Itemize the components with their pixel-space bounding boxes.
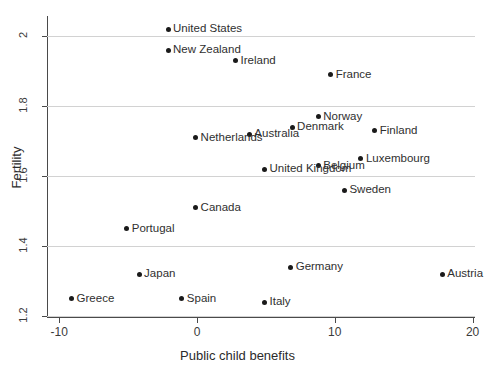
data-point-marker [166,48,171,53]
y-axis-line [47,16,48,317]
y-tick-mark [42,316,47,317]
x-tick-mark [59,318,60,323]
data-point-marker [124,226,129,231]
x-tick-label: 0 [177,325,217,339]
data-point-label: New Zealand [173,43,241,56]
data-point-marker [316,114,321,119]
data-point-marker [440,272,445,277]
data-point-label: Italy [270,295,291,308]
data-point-marker [288,265,293,270]
data-point-marker [137,272,142,277]
y-tick-mark [42,246,47,247]
data-point-marker [193,205,198,210]
y-tick-label: 1.4 [17,230,29,260]
x-tick-label: -10 [39,325,79,339]
data-point-label: Luxembourg [366,152,430,165]
data-point-label: Netherlands [201,131,263,144]
data-point-marker [166,27,171,32]
data-point-label: Greece [77,292,115,305]
data-point-label: Ireland [241,54,276,67]
data-point-label: Finland [380,124,418,137]
x-axis-title: Public child benefits [0,348,475,363]
y-tick-label: 1.2 [17,300,29,330]
data-point-label: Spain [187,292,216,305]
x-tick-mark [197,318,198,323]
data-point-label: Germany [296,260,343,273]
data-point-marker [233,58,238,63]
gridline-y [47,106,475,107]
y-tick-mark [42,106,47,107]
data-point-marker [193,135,198,140]
x-tick-label: 20 [453,325,488,339]
data-point-marker [328,72,333,77]
data-point-marker [372,128,377,133]
data-point-label: Portugal [132,222,175,235]
gridline-y [47,36,475,37]
x-tick-mark [473,318,474,323]
data-point-label: Denmark [297,120,344,133]
y-tick-label: 1.8 [17,90,29,120]
data-point-marker [262,167,267,172]
y-tick-mark [42,176,47,177]
data-point-marker [262,300,267,305]
y-tick-mark [42,36,47,37]
x-tick-label: 10 [315,325,355,339]
data-point-label: Canada [201,201,241,214]
data-point-label: Austria [447,267,483,280]
data-point-label: United Kingdom [270,162,352,175]
data-point-label: Sweden [349,183,391,196]
data-point-label: Japan [144,267,175,280]
y-axis-title: Fertility [9,138,24,198]
x-tick-mark [335,318,336,323]
gridline-y [47,316,475,317]
x-axis-line [47,317,475,318]
data-point-marker [179,296,184,301]
data-point-label: France [336,68,372,81]
y-tick-label: 2 [17,20,29,50]
data-point-label: United States [173,22,242,35]
gridline-y [47,176,475,177]
gridline-y [47,246,475,247]
data-point-marker [342,188,347,193]
data-point-marker [69,296,74,301]
